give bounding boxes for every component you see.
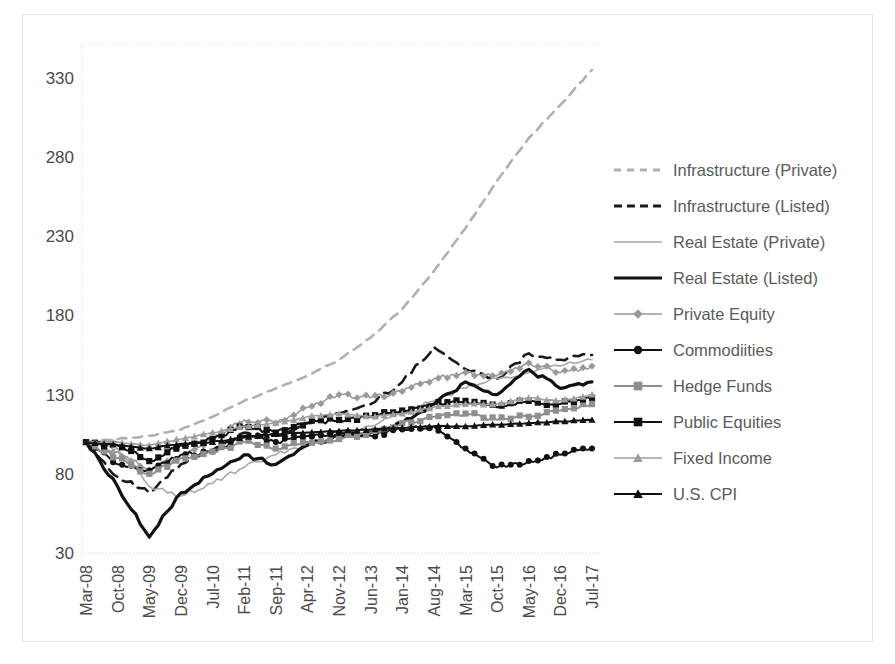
legend-item[interactable]: Infrastructure (Listed) (612, 188, 882, 224)
x-tick-label: Dec-09 (173, 565, 190, 617)
series-marker (137, 454, 143, 460)
y-tick-label: 30 (55, 544, 74, 563)
series-marker (155, 466, 161, 472)
legend-swatch-icon (612, 376, 664, 396)
series-marker (282, 443, 288, 449)
series-marker (146, 471, 152, 477)
y-tick-label: 230 (46, 227, 74, 246)
y-tick-label: 280 (46, 148, 74, 167)
series-marker (499, 414, 505, 420)
series-marker (309, 440, 315, 446)
series-marker (372, 434, 378, 440)
series-marker (526, 458, 532, 464)
series-marker (354, 394, 361, 401)
legend-item[interactable]: U.S. CPI (612, 476, 882, 512)
x-tick-label: Nov-12 (331, 565, 348, 617)
legend-item[interactable]: Real Estate (Listed) (612, 260, 882, 296)
series-marker (481, 415, 487, 421)
x-tick-label: Feb-11 (236, 565, 253, 615)
series-marker (110, 454, 116, 460)
x-tick-label: Oct-15 (489, 565, 506, 613)
series-marker (453, 372, 460, 379)
series-marker (164, 449, 170, 455)
series-marker (336, 417, 342, 423)
series-marker (444, 412, 450, 418)
x-tick-label: Jul-10 (205, 565, 222, 609)
series-marker (327, 437, 333, 443)
series-marker (462, 411, 468, 417)
series-marker (535, 413, 541, 419)
legend-swatch-icon (612, 268, 664, 288)
series-marker (381, 393, 388, 400)
series-marker (264, 443, 270, 449)
data-series-layer (82, 70, 595, 537)
series-marker (191, 454, 197, 460)
x-tick-label: Mar-08 (78, 565, 95, 616)
legend-item[interactable]: Infrastructure (Private) (612, 152, 882, 188)
series-marker (182, 455, 188, 461)
series-marker (553, 408, 559, 414)
series-marker (570, 365, 577, 372)
legend-swatch-icon (612, 412, 664, 432)
series-marker (273, 439, 279, 445)
chart-figure: 3302802301801308030 Mar-08Oct-08May-09De… (0, 0, 895, 664)
series-marker (218, 444, 224, 450)
series-marker (588, 391, 595, 398)
x-tick-label: Dec-16 (552, 565, 569, 617)
legend-swatch-icon (612, 160, 664, 180)
series-marker (535, 457, 541, 463)
series-marker (273, 445, 279, 451)
legend-item[interactable]: Hedge Funds (612, 368, 882, 404)
legend-item-label: U.S. CPI (673, 486, 737, 503)
legend-item[interactable]: Public Equities (612, 404, 882, 440)
series-marker (444, 434, 450, 440)
legend-swatch-icon (612, 448, 664, 468)
x-tick-label: Mar-15 (458, 565, 475, 616)
series-marker (291, 424, 297, 430)
series-marker (200, 451, 206, 457)
series-marker (363, 392, 370, 399)
series-marker (490, 463, 496, 469)
series-marker (571, 405, 577, 411)
series-marker (490, 414, 496, 420)
series-marker (164, 464, 170, 470)
legend-item[interactable]: Fixed Income (612, 440, 882, 476)
series-marker (589, 401, 595, 407)
legend-item[interactable]: Commodiities (612, 332, 882, 368)
series-marker (300, 439, 306, 445)
legend-swatch-icon (612, 484, 664, 504)
series-infrastructure-private (86, 70, 592, 442)
legend-item[interactable]: Private Equity (612, 296, 882, 332)
series-marker (571, 447, 577, 453)
series-marker (562, 451, 568, 457)
series-line (86, 70, 592, 442)
series-marker (435, 413, 441, 419)
series-marker (426, 414, 432, 420)
x-tick-label: Sep-11 (268, 565, 285, 616)
series-marker (300, 422, 306, 428)
series-marker (128, 462, 134, 468)
legend-marker (634, 418, 643, 427)
legend-item-label: Infrastructure (Private) (673, 162, 837, 179)
x-axis-tick-labels: Mar-08Oct-08May-09Dec-09Jul-10Feb-11Sep-… (78, 565, 601, 618)
series-marker (472, 451, 478, 457)
series-marker (499, 462, 505, 468)
series-marker (146, 458, 152, 464)
x-tick-label: Aug-14 (426, 565, 443, 617)
legend-item[interactable]: Real Estate (Private) (612, 224, 882, 260)
legend-item-label: Real Estate (Private) (673, 234, 825, 251)
series-marker (553, 451, 559, 457)
legend-item-label: Hedge Funds (673, 378, 772, 395)
series-marker (291, 440, 297, 446)
series-marker (463, 446, 469, 452)
legend-item-label: Commodiities (673, 342, 773, 359)
series-marker (318, 438, 324, 444)
chart-legend: Infrastructure (Private)Infrastructure (… (612, 152, 882, 512)
x-tick-label: Apr-12 (299, 565, 316, 613)
legend-item-label: Infrastructure (Listed) (673, 198, 830, 215)
series-marker (561, 367, 568, 374)
legend-swatch-icon (612, 196, 664, 216)
series-marker (517, 412, 523, 418)
x-tick-label: May-09 (141, 565, 158, 618)
legend-marker (633, 309, 643, 319)
